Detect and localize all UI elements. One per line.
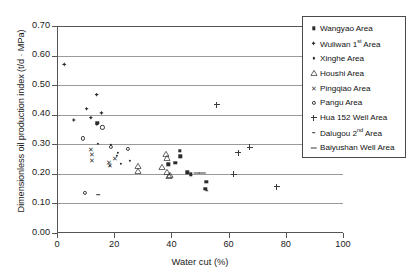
plus-icon (307, 112, 320, 124)
data-point (179, 154, 182, 157)
data-point (205, 190, 209, 192)
x-tick (57, 233, 58, 238)
x-tick (286, 233, 287, 238)
y-tick-label: 0.10 (32, 197, 50, 207)
open-circle-icon (307, 97, 320, 109)
data-point (274, 184, 280, 190)
legend-item-pangu[interactable]: Pangu Area (307, 95, 402, 110)
legend-item-baiyushan[interactable]: Baiyushan Well Area (307, 140, 402, 155)
data-point (126, 147, 130, 151)
data-point (89, 115, 94, 120)
data-point (109, 145, 113, 149)
legend-item-pingqiao[interactable]: ✕Pingqiao Area (307, 81, 402, 96)
data-point (95, 122, 100, 127)
data-point (117, 152, 119, 154)
chart-legend: Wangyao AreaWuliwan 1st AreaXinghe AreaH… (302, 16, 406, 158)
y-tick-label: 0.70 (32, 20, 50, 30)
data-point (97, 143, 99, 145)
open-triangle-icon (307, 67, 320, 79)
legend-item-xinghe[interactable]: Xinghe Area (307, 51, 402, 66)
data-point (235, 150, 241, 156)
legend-item-wuliwan[interactable]: Wuliwan 1st Area (307, 36, 402, 51)
data-point: ✕ (89, 157, 95, 164)
data-point (128, 160, 130, 162)
gridline (58, 174, 343, 175)
legend-item-label: Wangyao Area (320, 24, 373, 33)
short-dash-icon (307, 127, 320, 139)
y-tick-label: 0.20 (32, 167, 50, 177)
x-tick (171, 233, 172, 238)
data-point (84, 107, 89, 112)
data-point (81, 136, 85, 140)
x-tick-label: 60 (214, 239, 244, 249)
y-tick-label: 0.50 (32, 79, 50, 89)
data-point (96, 194, 100, 196)
legend-item-label: Pangu Area (320, 98, 362, 107)
legend-item-houshi[interactable]: Houshi Area (307, 66, 402, 81)
legend-item-hua152[interactable]: Hua 152 Well Area (307, 110, 402, 125)
y-tick-label: 0.40 (32, 108, 50, 118)
data-point (174, 161, 177, 164)
data-point (99, 111, 104, 116)
plot-area: ✕✕✕✕✕✕ (57, 26, 343, 233)
y-axis: 0.000.100.200.300.400.500.600.70 (0, 26, 57, 233)
data-point (71, 118, 76, 123)
gridline (58, 56, 343, 57)
data-point (166, 172, 173, 178)
data-point (62, 62, 67, 67)
data-point (166, 163, 169, 166)
legend-item-label: Xinghe Area (320, 54, 364, 63)
data-point (189, 173, 192, 176)
legend-item-label: Baiyushan Well Area (320, 143, 395, 152)
legend-item-label: Hua 152 Well Area (320, 113, 387, 122)
chart-figure: Dimensionless oil production index (t/d … (0, 0, 414, 279)
x-tick (343, 233, 344, 238)
long-dash-icon (307, 142, 320, 154)
data-point (83, 191, 87, 195)
x-axis: 020406080100 (57, 233, 347, 257)
data-point (214, 102, 220, 108)
data-point (135, 168, 142, 174)
gridline (58, 203, 343, 204)
legend-item-label: Pingqiao Area (320, 84, 370, 93)
data-point (247, 144, 253, 150)
data-point: ✕ (112, 155, 118, 162)
data-point (178, 149, 181, 152)
filled-square-icon (307, 22, 320, 34)
x-tick (229, 233, 230, 238)
legend-item-label: Wuliwan 1st Area (320, 38, 380, 49)
data-point (199, 173, 205, 174)
legend-item-dalugou[interactable]: Dalugou 2nd Area (307, 125, 402, 140)
data-point (94, 92, 99, 97)
gridline (58, 85, 343, 86)
gridline (58, 144, 343, 145)
x-tick-label: 20 (99, 239, 129, 249)
x-tick-label: 80 (271, 239, 301, 249)
x-tick-label: 100 (328, 239, 358, 249)
x-tick-label: 40 (156, 239, 186, 249)
legend-item-label: Houshi Area (320, 69, 364, 78)
small-dot-icon (307, 52, 320, 64)
y-tick-label: 0.60 (32, 49, 50, 59)
data-point (100, 125, 104, 129)
filled-diamond-icon (307, 37, 320, 49)
data-point: ✕ (107, 162, 113, 169)
y-tick-label: 0.00 (32, 227, 50, 237)
x-cross-icon: ✕ (307, 82, 320, 94)
x-axis-title: Water cut (%) (57, 256, 343, 267)
y-tick-label: 0.30 (32, 138, 50, 148)
data-point (164, 155, 171, 161)
data-point (120, 163, 122, 165)
gridline (58, 26, 343, 27)
legend-item-wangyao[interactable]: Wangyao Area (307, 21, 402, 36)
x-tick (114, 233, 115, 238)
data-point (204, 180, 207, 183)
data-point (231, 171, 237, 177)
legend-item-label: Dalugou 2nd Area (320, 127, 382, 138)
x-tick-label: 0 (42, 239, 72, 249)
